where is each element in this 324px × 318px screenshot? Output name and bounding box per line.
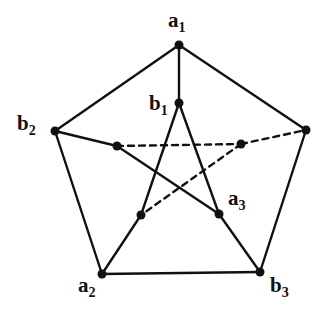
edge-q_low-a2 (102, 215, 141, 274)
edge-q_right-q_low (141, 144, 241, 215)
edge-q_left-a3 (117, 146, 219, 214)
edge-group (55, 45, 306, 274)
vertex-a3 (215, 210, 224, 219)
graph-diagram: a1 b1 b2 a2 a3 b3 (0, 0, 324, 318)
vertex-b1 (175, 99, 184, 108)
vertex-a1 (175, 41, 184, 50)
label-b3: b3 (270, 273, 289, 300)
edge-q_left-q_right (117, 144, 241, 146)
vertex-p_right (302, 126, 311, 135)
vertex-b2 (51, 127, 60, 136)
label-b2: b2 (17, 111, 36, 138)
edge-a3-b3 (219, 214, 260, 272)
label-a1: a1 (168, 8, 186, 35)
vertex-q_right (237, 140, 246, 149)
label-a2: a2 (78, 273, 96, 300)
edge-b1-a3 (179, 103, 219, 214)
vertex-b3 (256, 268, 265, 277)
label-a3: a3 (228, 186, 246, 213)
label-b1: b1 (149, 91, 168, 118)
graph-canvas: a1 b1 b2 a2 a3 b3 (0, 0, 324, 318)
edge-b2-a2 (55, 131, 102, 274)
vertex-q_low (137, 211, 146, 220)
edge-b2-q_left (55, 131, 117, 146)
edge-a1-p_right (179, 45, 306, 130)
edge-a2-b3 (102, 272, 260, 274)
edge-b1-q_low (141, 103, 179, 215)
vertex-q_left (113, 142, 122, 151)
edge-p_right-b3 (260, 130, 306, 272)
vertex-group (51, 41, 311, 279)
edge-q_right-p_right (241, 130, 306, 144)
edge-a1-b2 (55, 45, 179, 131)
vertex-a2 (98, 270, 107, 279)
